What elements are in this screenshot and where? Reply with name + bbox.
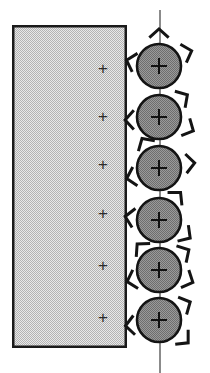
particle-6 xyxy=(137,298,181,342)
charge-symbol-plus-6: + xyxy=(98,308,108,327)
particle-2 xyxy=(137,95,181,139)
particle-4 xyxy=(137,198,181,242)
particle-3 xyxy=(137,146,181,190)
charge-symbol-plus-4: + xyxy=(98,204,108,223)
charge-symbol-plus-3: + xyxy=(98,155,108,174)
charge-symbol-plus-2: + xyxy=(98,107,108,126)
diagram-canvas: ++++++ xyxy=(0,0,210,373)
charge-symbol-plus-1: + xyxy=(98,59,108,78)
particle-5 xyxy=(137,248,181,292)
particle-1 xyxy=(137,44,181,88)
substrate-rectangle xyxy=(13,26,126,347)
charge-symbol-plus-5: + xyxy=(98,256,108,275)
substrate-group xyxy=(13,26,126,347)
technical-diagram: ++++++ xyxy=(0,0,210,373)
